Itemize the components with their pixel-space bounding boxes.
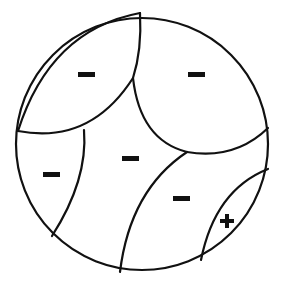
minus-sign-top-right xyxy=(188,72,205,77)
boundary-top-divider xyxy=(133,13,140,78)
minus-sign-left xyxy=(43,172,60,177)
boundary-top-left-lower xyxy=(18,78,133,133)
minus-sign-center xyxy=(122,156,139,161)
boundary-plus-region xyxy=(201,169,268,260)
boundary-center-divider xyxy=(120,152,187,272)
plus-sign-vertical xyxy=(225,214,229,228)
domain-diagram xyxy=(0,0,282,289)
minus-sign-top-left xyxy=(78,72,95,77)
boundary-left-divider xyxy=(52,130,84,236)
boundary-top-right-lower-a xyxy=(133,78,187,152)
minus-sign-lower-right xyxy=(173,196,190,201)
boundary-top-right-lower-b xyxy=(187,128,268,154)
